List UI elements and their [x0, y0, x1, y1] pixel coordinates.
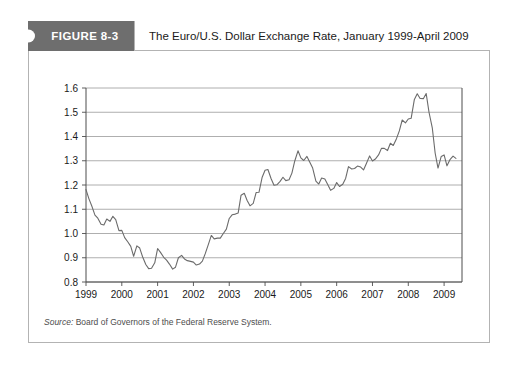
svg-text:2006: 2006 [326, 289, 349, 300]
x-tick-marks-group [86, 282, 444, 286]
svg-text:1999: 1999 [75, 289, 98, 300]
svg-text:1.1: 1.1 [64, 204, 78, 215]
figure-title: The Euro/U.S. Dollar Exchange Rate, Janu… [135, 30, 469, 42]
svg-text:0.9: 0.9 [64, 252, 78, 263]
exchange-rate-series-line [86, 94, 456, 270]
svg-text:2009: 2009 [433, 289, 456, 300]
figure-header: FIGURE 8-3 The Euro/U.S. Dollar Exchange… [28, 21, 490, 51]
y-tick-marks-group [82, 88, 86, 282]
figure-title-bar: The Euro/U.S. Dollar Exchange Rate, Janu… [134, 21, 490, 51]
svg-text:1.2: 1.2 [64, 180, 78, 191]
svg-text:1.6: 1.6 [64, 83, 78, 94]
svg-text:2005: 2005 [290, 289, 313, 300]
source-label: Source: [44, 317, 73, 327]
svg-text:2007: 2007 [361, 289, 384, 300]
y-axis-tick-labels: 0.80.91.01.11.21.31.41.51.6 [64, 83, 78, 288]
svg-text:2002: 2002 [182, 289, 205, 300]
svg-text:1.4: 1.4 [64, 131, 78, 142]
svg-text:0.8: 0.8 [64, 277, 78, 288]
bullet-icon [22, 30, 35, 43]
chart-plot-area: 0.80.91.01.11.21.31.41.51.6 199920002001… [28, 51, 490, 309]
exchange-rate-line-chart: 0.80.91.01.11.21.31.41.51.6 199920002001… [28, 51, 490, 309]
svg-text:2003: 2003 [218, 289, 241, 300]
svg-text:2000: 2000 [111, 289, 134, 300]
figure-number-label: FIGURE 8-3 [43, 30, 118, 42]
source-text: Board of Governors of the Federal Reserv… [73, 317, 271, 327]
svg-text:2004: 2004 [254, 289, 277, 300]
svg-text:2001: 2001 [146, 289, 169, 300]
svg-text:1.0: 1.0 [64, 228, 78, 239]
source-note: Source: Board of Governors of the Federa… [44, 317, 272, 327]
svg-text:1.3: 1.3 [64, 155, 78, 166]
svg-text:2008: 2008 [397, 289, 420, 300]
figure-number-tab: FIGURE 8-3 [28, 21, 134, 51]
x-axis-tick-labels: 1999200020012002200320042005200620072008… [75, 289, 456, 300]
svg-text:1.5: 1.5 [64, 107, 78, 118]
